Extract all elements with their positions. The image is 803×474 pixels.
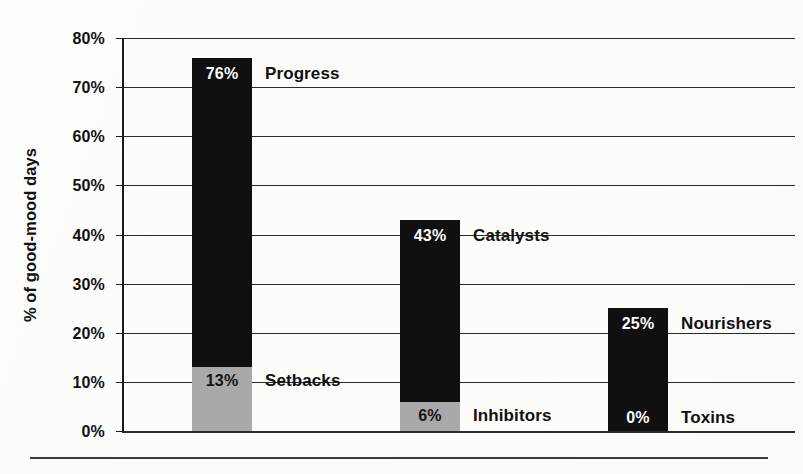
y-tick-70: 70% bbox=[116, 87, 124, 88]
bar-3-positive-value: 25% bbox=[608, 315, 668, 333]
y-tick-20: 20% bbox=[116, 333, 124, 334]
y-tick-0: 0% bbox=[116, 431, 124, 432]
bar-1-negative-value: 13% bbox=[192, 372, 252, 390]
y-tick-80: 80% bbox=[116, 38, 124, 39]
gridline-80 bbox=[122, 38, 795, 39]
bar-2[interactable]: 43%Catalysts6%Inhibitors bbox=[400, 220, 460, 431]
y-tick-label-0: 0% bbox=[81, 423, 105, 441]
bar-2-positive-label: Catalysts bbox=[473, 226, 550, 246]
bar-1-segment-negative[interactable]: 13%Setbacks bbox=[192, 367, 252, 431]
page-bottom-rule bbox=[30, 457, 768, 459]
bar-2-negative-value: 6% bbox=[400, 407, 460, 425]
bar-3[interactable]: 25%Nourishers0%Toxins bbox=[608, 308, 668, 431]
y-tick-label-20: 20% bbox=[72, 325, 105, 343]
bar-2-segment-positive[interactable]: 43%Catalysts bbox=[400, 220, 460, 402]
bar-2-positive-value: 43% bbox=[400, 227, 460, 245]
bar-3-positive-label: Nourishers bbox=[681, 314, 772, 334]
y-tick-30: 30% bbox=[116, 284, 124, 285]
y-tick-40: 40% bbox=[116, 235, 124, 236]
bar-3-negative-value: 0% bbox=[608, 409, 668, 427]
bar-1-positive-label: Progress bbox=[265, 64, 340, 84]
bar-1-positive-value: 76% bbox=[192, 65, 252, 83]
y-tick-50: 50% bbox=[116, 185, 124, 186]
y-tick-label-10: 10% bbox=[72, 374, 105, 392]
y-tick-10: 10% bbox=[116, 382, 124, 383]
y-tick-label-80: 80% bbox=[72, 30, 105, 48]
y-axis: 80%70%60%50%40%30%20%10%0% bbox=[122, 38, 124, 431]
bar-1-negative-label: Setbacks bbox=[265, 371, 340, 391]
bar-1-segment-positive[interactable]: 76%Progress bbox=[192, 58, 252, 367]
chart-plot-area: 76%Progress13%Setbacks43%Catalysts6%Inhi… bbox=[122, 38, 795, 431]
y-tick-label-40: 40% bbox=[72, 227, 105, 245]
bar-2-negative-label: Inhibitors bbox=[473, 406, 551, 426]
bar-2-segment-negative[interactable]: 6%Inhibitors bbox=[400, 402, 460, 431]
y-tick-label-70: 70% bbox=[72, 79, 105, 97]
bar-3-negative-label: Toxins bbox=[681, 408, 735, 428]
y-tick-label-30: 30% bbox=[72, 276, 105, 294]
y-tick-label-50: 50% bbox=[72, 177, 105, 195]
y-axis-title: % of good-mood days bbox=[21, 147, 40, 321]
y-tick-label-60: 60% bbox=[72, 128, 105, 146]
gridline-0 bbox=[122, 431, 795, 433]
bar-1[interactable]: 76%Progress13%Setbacks bbox=[192, 58, 252, 431]
y-tick-60: 60% bbox=[116, 136, 124, 137]
